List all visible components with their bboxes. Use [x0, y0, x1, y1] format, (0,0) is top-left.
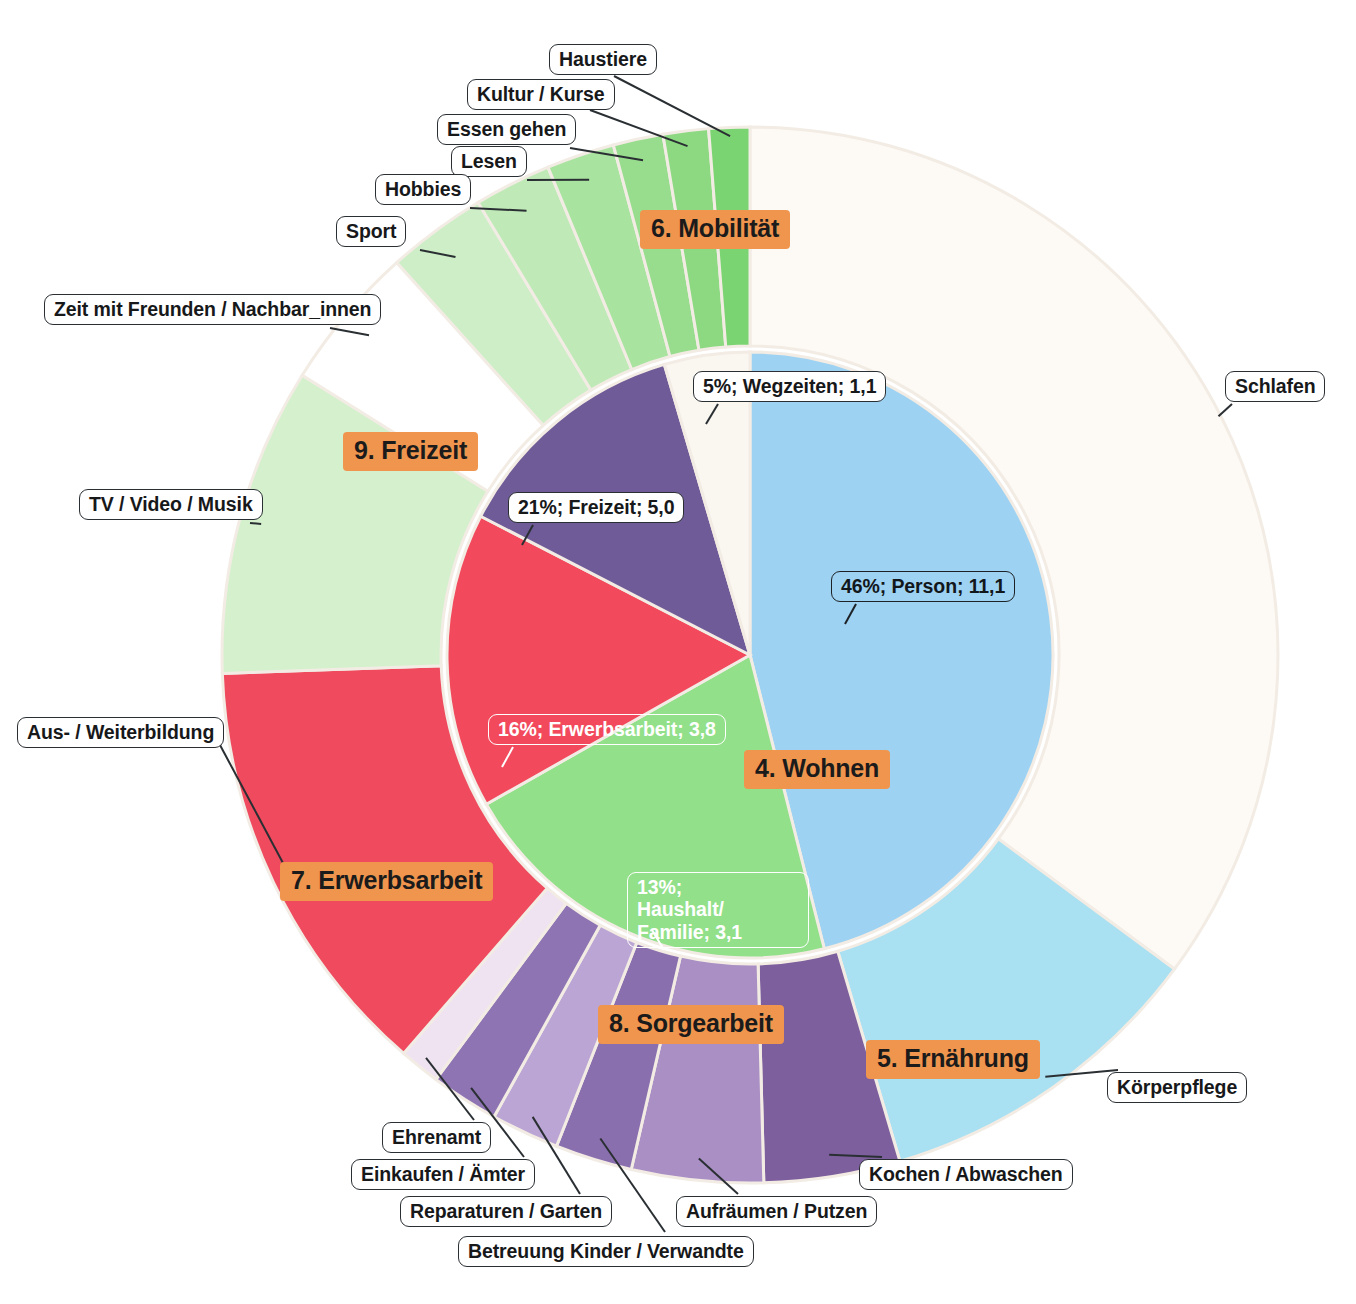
callout-sport: Sport — [336, 216, 406, 247]
callout-betreuung-kinder: Betreuung Kinder / Verwandte — [458, 1236, 754, 1267]
sunburst-svg — [0, 0, 1356, 1304]
callout-aus-weiterbildung: Aus- / Weiterbildung — [17, 717, 224, 748]
badge-wohnen: 4. Wohnen — [744, 750, 890, 789]
callout-aufraeumen-putzen: Aufräumen / Putzen — [676, 1196, 877, 1227]
callout-haushalt-line1: 13%; — [637, 876, 682, 898]
badge-mobilitaet: 6. Mobilität — [640, 210, 790, 249]
callout-freizeit: 21%; Freizeit; 5,0 — [508, 492, 684, 523]
callout-einkaufen-aemter: Einkaufen / Ämter — [351, 1159, 535, 1190]
callout-erwerbsarbeit: 16%; Erwerbsarbeit; 3,8 — [488, 714, 726, 745]
callout-zeit-mit-freunden: Zeit mit Freunden / Nachbar_innen — [44, 294, 381, 325]
callout-koerperpflege: Körperpflege — [1107, 1072, 1247, 1103]
callout-haushalt-familie: 13%; Haushalt/ Familie; 3,1 — [627, 872, 809, 948]
callout-ehrenamt: Ehrenamt — [382, 1122, 491, 1153]
callout-lesen: Lesen — [451, 146, 527, 177]
callout-kochen-abwaschen: Kochen / Abwaschen — [859, 1159, 1073, 1190]
badge-freizeit: 9. Freizeit — [343, 432, 478, 471]
callout-haustiere: Haustiere — [549, 44, 657, 75]
callout-essen-gehen: Essen gehen — [437, 114, 576, 145]
leader-tv-video-musik — [250, 523, 261, 524]
callout-haushalt-line2: Haushalt/ Familie; 3,1 — [637, 898, 742, 942]
leader-schlafen — [1219, 404, 1232, 416]
callout-kultur-kurse: Kultur / Kurse — [467, 79, 615, 110]
callout-reparaturen-garten: Reparaturen / Garten — [400, 1196, 612, 1227]
callout-hobbies: Hobbies — [375, 174, 471, 205]
callout-schlafen: Schlafen — [1225, 371, 1325, 402]
badge-ernaehrung: 5. Ernährung — [866, 1040, 1040, 1079]
leader-haustiere — [614, 76, 730, 136]
callout-wegzeiten: 5%; Wegzeiten; 1,1 — [693, 371, 886, 402]
sunburst-chart: Haustiere Kultur / Kurse Essen gehen Les… — [0, 0, 1356, 1304]
badge-sorgearbeit: 8. Sorgearbeit — [598, 1005, 784, 1044]
callout-tv-video-musik: TV / Video / Musik — [79, 489, 263, 520]
badge-erwerbsarbeit: 7. Erwerbsarbeit — [280, 862, 493, 901]
callout-person: 46%; Person; 11,1 — [831, 571, 1015, 602]
inner-ring-group — [447, 352, 1053, 958]
